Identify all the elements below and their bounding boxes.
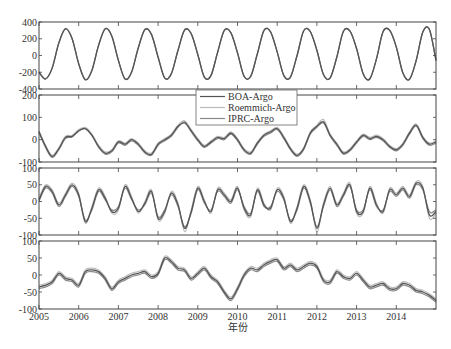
y-tick-label: 0 — [32, 196, 37, 207]
x-tick-label: 2007 — [108, 311, 128, 322]
figure: -400-2000200400-1000100200-100-50050100-… — [0, 0, 451, 349]
legend-label-boa: BOA-Argo — [228, 91, 273, 102]
y-tick-label: 400 — [22, 17, 37, 28]
panel-3: -100-50050100 — [19, 163, 436, 241]
series-boa-argo — [39, 121, 436, 156]
y-tick-label: 200 — [22, 33, 37, 44]
legend-label-roemmich: Roemmich-Argo — [228, 102, 296, 113]
panel-1: -400-2000200400 — [19, 17, 436, 95]
y-tick-label: 0 — [32, 134, 37, 145]
legend-label-iprc: IPRC-Argo — [228, 113, 274, 124]
x-tick-label: 2005 — [29, 311, 49, 322]
y-tick-label: 100 — [22, 163, 37, 174]
x-tick-label: 2014 — [386, 311, 406, 322]
panel-3-series — [39, 181, 436, 232]
series-boa-argo — [39, 257, 436, 300]
y-tick-label: 100 — [22, 236, 37, 247]
x-tick-label: 2006 — [69, 311, 89, 322]
y-tick-label: -50 — [24, 213, 37, 224]
series-iprc-argo — [39, 259, 436, 302]
x-tick-label: 2009 — [188, 311, 208, 322]
x-tick-label: 2008 — [148, 311, 168, 322]
panel-4-frame — [39, 241, 436, 309]
panel-1-frame — [39, 22, 436, 89]
panel-1-series — [39, 27, 436, 80]
x-axis-label: 年份 — [228, 321, 248, 333]
panels: -400-2000200400-1000100200-100-50050100-… — [19, 17, 436, 315]
y-tick-label: 50 — [27, 179, 37, 190]
series-boa-argo — [39, 27, 436, 80]
x-tick-label: 2012 — [307, 311, 327, 322]
y-tick-label: 0 — [32, 50, 37, 61]
series-roemmich-argo — [39, 256, 436, 299]
legend: BOA-Argo Roemmich-Argo IPRC-Argo — [196, 90, 297, 125]
x-tick-label: 2013 — [347, 311, 367, 322]
panel-4-series — [39, 256, 436, 302]
y-tick-label: -50 — [24, 287, 37, 298]
x-tick-label: 2011 — [267, 311, 287, 322]
y-tick-label: 50 — [27, 253, 37, 264]
x-tick-label: 2010 — [228, 311, 248, 322]
chart-canvas: -400-2000200400-1000100200-100-50050100-… — [0, 0, 451, 349]
panel-4: -100-50050100 — [19, 236, 436, 315]
y-tick-label: 100 — [22, 112, 37, 123]
y-tick-label: 200 — [22, 90, 37, 101]
y-tick-label: -200 — [19, 67, 37, 78]
y-tick-label: 0 — [32, 270, 37, 281]
x-axis: 2005200620072008200920102011201220132014 — [29, 311, 406, 322]
